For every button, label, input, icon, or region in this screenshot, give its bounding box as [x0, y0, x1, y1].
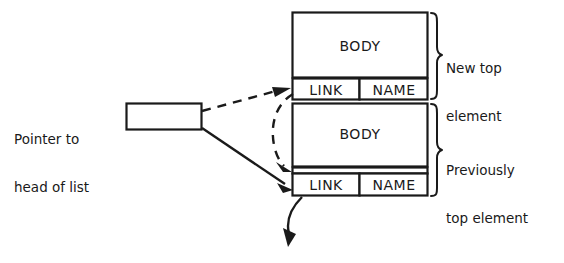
new-top-brace [431, 13, 442, 99]
pointer-head-caption: Pointer to head of list [14, 100, 89, 227]
pointer-head-caption-line2: head of list [14, 180, 89, 196]
new-top-name-label: NAME [360, 82, 428, 98]
solid-pointer-to-prev-link-arrowhead [277, 183, 293, 193]
prev-top-name-label: NAME [360, 177, 428, 193]
prev-top-body-label: BODY [292, 126, 428, 142]
new-top-body-label: BODY [292, 38, 428, 54]
solid-prevlink-to-rest-line [288, 197, 302, 237]
prev-top-element-caption-line2: top element [446, 211, 528, 227]
dashed-newlink-to-prev-arrowhead [276, 162, 292, 172]
new-top-element-caption-line2: element [446, 109, 502, 125]
prev-top-brace [431, 104, 442, 196]
pointer-head-caption-line1: Pointer to [14, 132, 89, 148]
prev-top-element-caption: Previously top element [446, 131, 528, 258]
new-top-link-label: LINK [292, 82, 360, 98]
dashed-pointer-to-new-link-arrowhead [272, 87, 291, 97]
prev-top-element-caption-line1: Previously [446, 163, 528, 179]
diagram-canvas: BODY LINK NAME BODY LINK NAME New top el… [0, 0, 564, 263]
new-top-element-caption-line1: New top [446, 61, 502, 77]
dashed-newlink-to-prev-line [273, 94, 293, 166]
pointer-head-box [127, 104, 202, 130]
dashed-pointer-to-new-link-line [202, 91, 276, 111]
prev-top-link-label: LINK [292, 177, 360, 193]
